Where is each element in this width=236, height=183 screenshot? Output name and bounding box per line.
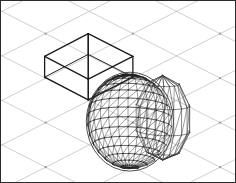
mesh-edge (106, 155, 109, 156)
hemisphere-edge-diagonal (182, 108, 188, 135)
mesh-edge (119, 90, 120, 98)
mesh-edge (103, 147, 108, 148)
hemisphere-edge (174, 135, 182, 136)
grid-line-b (1, 1, 235, 61)
mesh-edge (101, 117, 109, 118)
hemisphere-edge (140, 106, 147, 108)
mesh-edge (119, 127, 120, 137)
box-bottom-edge (45, 77, 89, 100)
mesh-edge (114, 146, 117, 154)
mesh-edge (109, 99, 110, 108)
hemisphere-edge (147, 134, 155, 135)
grid-node (45, 166, 47, 168)
hemisphere-edge (153, 86, 158, 87)
mesh-edge (110, 98, 119, 99)
hemisphere-edge-diagonal (136, 85, 148, 105)
mesh-edge-diagonal (128, 84, 136, 90)
grid-node (132, 33, 134, 35)
mesh-edge-diagonal (101, 108, 109, 119)
mesh-edge (141, 155, 146, 161)
mesh-edge (128, 117, 138, 118)
mesh-edge (90, 122, 92, 132)
mesh-edge-diagonal (118, 98, 128, 107)
mesh-edge (169, 124, 172, 126)
mesh-edge (147, 118, 148, 128)
mesh-edge (136, 84, 137, 91)
mesh-edge-diagonal (117, 145, 121, 153)
mesh-edge-diagonal (119, 90, 129, 98)
viewport-3d[interactable] (0, 0, 236, 183)
mesh-edge (136, 84, 143, 85)
mesh-edge (100, 148, 103, 149)
hemisphere-edge (155, 135, 158, 154)
mesh-edge-diagonal (99, 128, 102, 139)
mesh-edge (102, 128, 105, 138)
wireframe-hemisphere[interactable] (136, 75, 189, 160)
mesh-edge (141, 154, 146, 155)
mesh-edge-diagonal (144, 158, 153, 162)
mesh-edge-diagonal (108, 137, 111, 147)
mesh-edge (136, 146, 143, 147)
hemisphere-edge-diagonal (179, 85, 187, 108)
hemisphere-edge-diagonal (174, 109, 182, 136)
hemisphere-edge (155, 135, 164, 136)
hemisphere-edge-diagonal (147, 86, 158, 108)
hemisphere-edge (178, 86, 187, 108)
mesh-edge (159, 141, 163, 143)
mesh-edge-diagonal (162, 96, 164, 103)
mesh-edge (121, 145, 123, 153)
mesh-edge (150, 148, 155, 149)
mesh-edge-diagonal (102, 117, 109, 128)
scene-canvas (1, 1, 235, 182)
mesh-edge-diagonal (129, 137, 138, 146)
mesh-edge (102, 127, 110, 128)
mesh-edge (94, 120, 96, 130)
mesh-edge-diagonal (94, 109, 100, 120)
box-bottom-edge-back (88, 54, 133, 77)
mesh-edge (90, 132, 92, 134)
mesh-edge-diagonal (123, 145, 129, 153)
hemisphere-edge (174, 109, 182, 110)
mesh-edge (137, 161, 141, 162)
mesh-edge (120, 136, 121, 145)
mesh-edge-diagonal (111, 127, 118, 137)
grid-line-b (1, 155, 235, 182)
mesh-edge-diagonal (128, 90, 137, 98)
hemisphere-edge-diagonal (174, 86, 175, 109)
mesh-edge-diagonal (128, 108, 138, 117)
hemisphere-edge (174, 86, 181, 109)
grid-node (219, 166, 221, 168)
mesh-edge (108, 146, 114, 147)
mesh-edge (104, 138, 108, 147)
mesh-edge-diagonal (121, 154, 123, 161)
hemisphere-edge (174, 86, 177, 87)
mesh-edge (111, 137, 114, 146)
mesh-edge (105, 157, 106, 158)
mesh-edge-diagonal (95, 130, 96, 141)
mesh-edge (136, 137, 137, 146)
grid-node (219, 122, 221, 124)
mesh-edge (156, 110, 163, 112)
hemisphere-edge (182, 108, 188, 109)
mesh-edge (153, 158, 155, 159)
mesh-edge-diagonal (103, 138, 104, 148)
mesh-edge-diagonal (92, 120, 95, 132)
mesh-edge-diagonal (114, 136, 120, 145)
mesh-edge (88, 124, 90, 134)
mesh-dome[interactable] (86, 72, 173, 171)
mesh-edge (113, 161, 115, 162)
mesh-edge-diagonal (125, 154, 129, 161)
mesh-edge-diagonal (121, 136, 128, 145)
mesh-edge (113, 154, 118, 155)
mesh-edge-diagonal (109, 107, 118, 117)
mesh-edge (109, 117, 118, 118)
mesh-edge (137, 90, 138, 98)
mesh-edge (144, 162, 146, 163)
grid-line-a (1, 1, 235, 46)
grid-node (132, 122, 134, 124)
mesh-edge-diagonal (169, 107, 170, 114)
hemisphere-edge (164, 87, 165, 110)
grid-node (45, 122, 47, 124)
mesh-edge (128, 107, 138, 108)
mesh-edge (123, 154, 125, 161)
